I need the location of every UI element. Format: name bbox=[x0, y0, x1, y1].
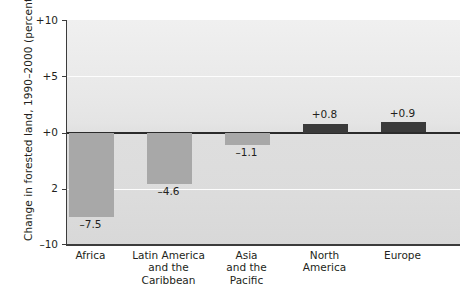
bar-asia-pacific bbox=[225, 133, 270, 145]
forest-change-bar-chart: Change in forested land, 1990–2000 (perc… bbox=[0, 0, 473, 302]
y-axis-title: Change in forested land, 1990–2000 (perc… bbox=[22, 1, 34, 241]
value-label-north-america: +0.8 bbox=[302, 108, 347, 120]
gridline-plus5 bbox=[67, 76, 460, 77]
y-ticklabel-zero: +0 bbox=[12, 126, 58, 138]
y-tick-plus10 bbox=[62, 20, 67, 21]
category-label-europe: Europe bbox=[357, 249, 448, 261]
bar-latin-america bbox=[147, 133, 192, 185]
value-label-latin-america: –4.6 bbox=[146, 185, 191, 197]
value-label-europe: +0.9 bbox=[380, 107, 425, 119]
category-line: America bbox=[279, 261, 370, 273]
y-tick-plus5 bbox=[62, 76, 67, 77]
gridline-minus5 bbox=[67, 189, 460, 190]
y-tick-zero bbox=[62, 133, 67, 134]
x-axis-line bbox=[66, 244, 460, 245]
y-tick-minus5 bbox=[62, 189, 67, 190]
y-ticklabel-plus5: +5 bbox=[12, 70, 58, 82]
value-label-africa: –7.5 bbox=[68, 218, 113, 230]
bar-africa bbox=[69, 133, 114, 217]
y-ticklabel-plus10: +10 bbox=[12, 14, 58, 26]
category-line: Pacific bbox=[201, 274, 292, 286]
value-label-asia-pacific: –1.1 bbox=[224, 146, 269, 158]
category-line: Europe bbox=[357, 249, 448, 261]
bar-europe bbox=[381, 122, 426, 132]
bar-north-america bbox=[303, 124, 348, 133]
y-ticklabel-minus5: 2 bbox=[12, 182, 58, 194]
plot-area bbox=[66, 20, 460, 245]
